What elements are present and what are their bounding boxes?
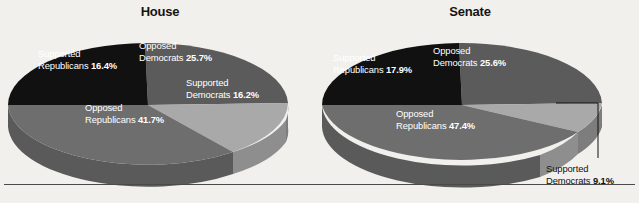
senate-chart-title: Senate (320, 4, 620, 19)
senate-label-opposed-democrats: Opposed Democrats 25.6% (433, 45, 506, 68)
house-value-opposed-republicans: 41.7% (138, 114, 164, 125)
house-label-supported-republicans-line1: Supported (38, 48, 80, 59)
house-label-opposed-republicans-line2: Republicans (85, 114, 138, 125)
senate-label-supported-democrats-line1: Supported (546, 163, 588, 174)
house-label-opposed-democrats-line1: Opposed (139, 40, 176, 51)
house-chart-title: House (0, 4, 320, 19)
house-label-opposed-republicans-line1: Opposed (85, 102, 122, 113)
house-label-opposed-democrats: Opposed Democrats 25.7% (139, 40, 212, 63)
senate-value-supported-republicans: 17.9% (386, 64, 412, 75)
senate-label-supported-republicans: Supported Republicans 17.9% (333, 52, 412, 75)
house-value-opposed-democrats: 25.7% (186, 52, 212, 63)
house-value-supported-republicans: 16.4% (91, 60, 117, 71)
senate-label-opposed-republicans-line1: Opposed (396, 108, 433, 119)
senate-label-supported-republicans-line2: Republicans (333, 64, 386, 75)
senate-value-opposed-republicans: 47.4% (449, 120, 475, 131)
senate-label-opposed-republicans-line2: Republicans (396, 120, 449, 131)
senate-label-opposed-republicans: Opposed Republicans 47.4% (396, 108, 475, 131)
bottom-rule (4, 184, 635, 185)
house-label-supported-democrats: Supported Democrats 16.2% (186, 77, 259, 100)
house-label-opposed-democrats-line2: Democrats (139, 52, 186, 63)
senate-label-supported-republicans-line1: Supported (333, 52, 375, 63)
house-label-supported-republicans-line2: Republicans (38, 60, 91, 71)
senate-label-opposed-democrats-line2: Democrats (433, 57, 480, 68)
figure-canvas: House Senate Supported Republicans 16.4%… (0, 0, 639, 203)
house-label-opposed-republicans: Opposed Republicans 41.7% (85, 102, 164, 125)
senate-callout-supported-democrats: Supported Democrats 9.1% (546, 163, 614, 186)
senate-label-opposed-democrats-line1: Opposed (433, 45, 470, 56)
house-value-supported-democrats: 16.2% (233, 89, 259, 100)
house-label-supported-republicans: Supported Republicans 16.4% (38, 48, 117, 71)
senate-value-opposed-democrats: 25.6% (480, 57, 506, 68)
house-label-supported-democrats-line2: Democrats (186, 89, 233, 100)
house-label-supported-democrats-line1: Supported (186, 77, 228, 88)
